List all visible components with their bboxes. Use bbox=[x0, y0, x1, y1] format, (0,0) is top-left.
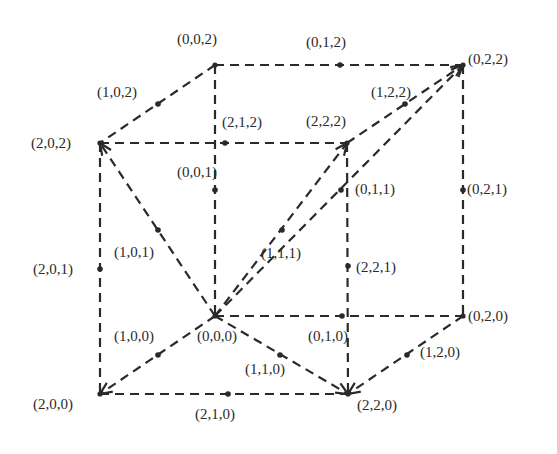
node-label-100: (1,0,0) bbox=[114, 328, 154, 345]
node-label-212: (2,1,2) bbox=[222, 114, 262, 131]
node-dot-120 bbox=[404, 352, 410, 358]
node-dot-202 bbox=[97, 140, 102, 145]
node-label-210: (2,1,0) bbox=[195, 406, 235, 423]
node-dot-212 bbox=[222, 140, 228, 146]
node-label-202: (2,0,2) bbox=[31, 135, 71, 152]
node-label-102: (1,0,2) bbox=[97, 84, 137, 101]
node-label-222: (2,2,2) bbox=[306, 113, 346, 130]
node-dot-020 bbox=[460, 313, 465, 318]
node-label-010: (0,1,0) bbox=[308, 328, 348, 345]
node-label-201: (2,0,1) bbox=[33, 261, 73, 278]
node-dot-110 bbox=[277, 352, 283, 358]
lattice-cube-diagram: (0,0,2)(0,2,2)(2,0,2)(2,2,2)(0,0,0)(0,2,… bbox=[0, 0, 557, 454]
node-dot-001 bbox=[212, 187, 218, 193]
node-labels-layer: (0,0,2)(0,2,2)(2,0,2)(2,2,2)(0,0,0)(0,2,… bbox=[31, 31, 508, 423]
node-dot-122 bbox=[402, 101, 408, 107]
node-label-020: (0,2,0) bbox=[468, 308, 508, 325]
node-dots-layer bbox=[97, 62, 466, 397]
node-dot-222 bbox=[344, 140, 349, 145]
node-dot-220 bbox=[345, 391, 350, 396]
node-label-122: (1,2,2) bbox=[371, 84, 411, 101]
node-label-220: (2,2,0) bbox=[357, 397, 397, 414]
node-label-110: (1,1,0) bbox=[245, 361, 285, 378]
node-dot-101 bbox=[155, 227, 161, 233]
node-label-002: (0,0,2) bbox=[177, 31, 217, 48]
node-dot-111 bbox=[279, 227, 285, 233]
node-dot-010 bbox=[339, 313, 345, 319]
node-dot-022 bbox=[460, 62, 465, 67]
node-dot-102 bbox=[155, 101, 161, 107]
node-label-101: (1,0,1) bbox=[114, 244, 154, 261]
node-label-221: (2,2,1) bbox=[356, 259, 396, 276]
node-dot-021 bbox=[460, 187, 466, 193]
node-dot-201 bbox=[97, 266, 103, 272]
node-label-001: (0,0,1) bbox=[177, 164, 217, 181]
node-dot-000 bbox=[212, 313, 217, 318]
node-label-111: (1,1,1) bbox=[261, 245, 301, 262]
node-dot-002 bbox=[212, 62, 217, 67]
node-label-120: (1,2,0) bbox=[420, 344, 460, 361]
node-dot-100 bbox=[155, 352, 161, 358]
node-label-021: (0,2,1) bbox=[467, 181, 507, 198]
node-dot-221 bbox=[345, 263, 351, 269]
node-dot-210 bbox=[225, 391, 231, 397]
node-dot-011 bbox=[338, 187, 344, 193]
node-label-000: (0,0,0) bbox=[197, 328, 237, 345]
node-dot-012 bbox=[337, 62, 343, 68]
node-label-200: (2,0,0) bbox=[33, 396, 73, 413]
node-label-012: (0,1,2) bbox=[306, 34, 346, 51]
node-label-022: (0,2,2) bbox=[468, 51, 508, 68]
node-label-011: (0,1,1) bbox=[355, 181, 395, 198]
node-dot-200 bbox=[97, 391, 102, 396]
